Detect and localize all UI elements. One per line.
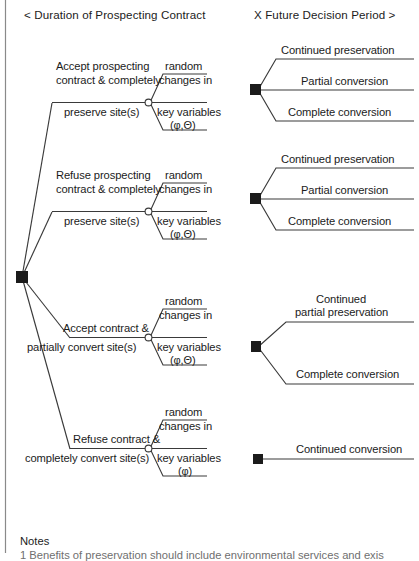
event-label-3-line3: key variables	[157, 341, 221, 354]
notes-item-1: 1 Benefits of preservation should includ…	[20, 549, 384, 561]
header-left-label: < Duration of Prospecting Contract	[24, 8, 206, 21]
action-label-accept-preserve-line3: preserve site(s)	[64, 106, 140, 119]
outcome-label-b4-continued-conversion: Continued conversion	[296, 443, 402, 456]
event-label-2-line3: key variables	[157, 215, 221, 228]
event-label-4-line1: random	[165, 406, 202, 419]
outcome-label-b1-complete-conversion: Complete conversion	[288, 106, 391, 119]
decision-node-4	[253, 454, 263, 464]
event-vars-4: (φ)	[178, 465, 192, 478]
event-label-2-line1: random	[165, 169, 202, 182]
event-label-2-line2: changes in	[159, 183, 212, 196]
outcome-label-b1-partial-conversion: Partial conversion	[301, 75, 388, 88]
event-label-1-line2: changes in	[159, 74, 212, 87]
event-label-4-line2: changes in	[159, 420, 212, 433]
action-label-refuse-preserve-line2: contract & completely	[56, 183, 161, 196]
event-vars-3: (φ,Θ)	[170, 354, 196, 367]
action-label-accept-preserve-line1: Accept prospecting	[56, 60, 149, 73]
event-label-1-line3: key variables	[157, 106, 221, 119]
action-label-refuse-convert-line2: completely convert site(s)	[25, 452, 149, 465]
outcome-label-b2-continued-preservation: Continued preservation	[281, 153, 394, 166]
action-label-accept-partial-line1: Accept contract &	[63, 322, 149, 335]
chance-node-1	[145, 99, 152, 106]
action-label-accept-partial-line2: partially convert site(s)	[27, 341, 136, 354]
outcome-label-b1-continued-preservation: Continued preservation	[281, 44, 394, 57]
outcome-label-b3-partial-preservation: partial preservation	[295, 306, 388, 319]
event-label-1-line1: random	[165, 60, 202, 73]
action-label-refuse-preserve-line1: Refuse prospecting	[56, 169, 151, 182]
header-right-label: X Future Decision Period >	[254, 8, 395, 21]
event-label-3-line1: random	[165, 295, 202, 308]
root-decision-node	[16, 271, 28, 283]
chance-node-2	[145, 208, 152, 215]
decision-node-1	[250, 84, 261, 95]
decision-node-2	[250, 193, 261, 204]
event-vars-1: (φ,Θ)	[170, 119, 196, 132]
chance-node-3	[145, 334, 152, 341]
chance-node-4	[145, 445, 152, 452]
event-label-4-line3: key variables	[157, 452, 221, 465]
outcome-label-b2-partial-conversion: Partial conversion	[301, 184, 388, 197]
action-arms	[52, 103, 147, 449]
outcome-label-b3-continued: Continued	[316, 293, 366, 306]
action-label-refuse-convert-line1: Refuse contract &	[73, 433, 160, 446]
decision-node-3	[251, 341, 261, 352]
event-vars-2: (φ,Θ)	[170, 228, 196, 241]
event-label-3-line2: changes in	[159, 309, 212, 322]
notes-title: Notes	[20, 535, 49, 547]
action-label-accept-preserve-line2: contract & completely	[56, 74, 161, 87]
outcome-label-b3-complete-conversion: Complete conversion	[296, 368, 399, 381]
root-branch-edges	[22, 103, 70, 449]
outcome-label-b2-complete-conversion: Complete conversion	[288, 215, 391, 228]
action-label-refuse-preserve-line3: preserve site(s)	[64, 215, 140, 228]
